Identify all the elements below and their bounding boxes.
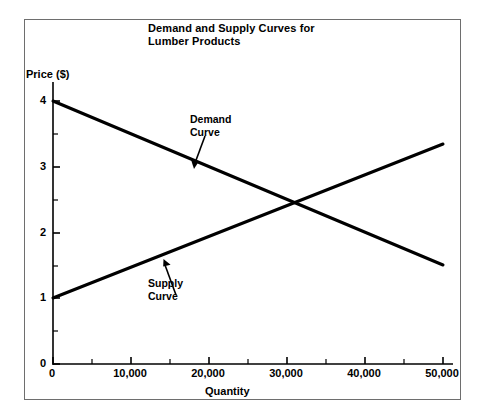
x-tick-label-0: 0 (22, 367, 82, 380)
supply-curve-line (53, 144, 443, 298)
y-tick-label-1: 1 (28, 291, 46, 304)
y-tick-label-4: 4 (28, 94, 46, 107)
plot-area (25, 20, 460, 399)
demand-curve-label-line2: Curve (190, 126, 220, 138)
y-tick-label-2: 2 (28, 226, 46, 239)
chart-figure: Demand and Supply Curves forLumber Produ… (0, 0, 480, 419)
chart-frame (24, 19, 461, 400)
demand-curve-line (53, 101, 443, 265)
supply-curve-label-line2: Curve (148, 290, 178, 302)
x-tick-label-40000: 40,000 (334, 367, 394, 380)
chart-title-line2: Lumber Products (148, 35, 241, 47)
supply-curve-label: SupplyCurve (148, 277, 183, 303)
x-tick-label-10000: 10,000 (100, 367, 160, 380)
y-tick-label-3: 3 (28, 160, 46, 173)
demand-curve-label-line1: Demand (190, 113, 231, 125)
chart-title-line1: Demand and Supply Curves for (148, 22, 315, 34)
y-major-ticks (53, 101, 60, 364)
demand-curve-label: DemandCurve (190, 113, 231, 139)
x-tick-label-20000: 20,000 (178, 367, 238, 380)
supply-curve-label-line1: Supply (148, 277, 183, 289)
x-axis-title: Quantity (205, 385, 250, 398)
y-axis-title: Price ($) (26, 68, 69, 81)
chart-title: Demand and Supply Curves forLumber Produ… (148, 22, 315, 49)
x-tick-label-30000: 30,000 (256, 367, 316, 380)
x-tick-label-50000: 50,000 (412, 367, 472, 380)
